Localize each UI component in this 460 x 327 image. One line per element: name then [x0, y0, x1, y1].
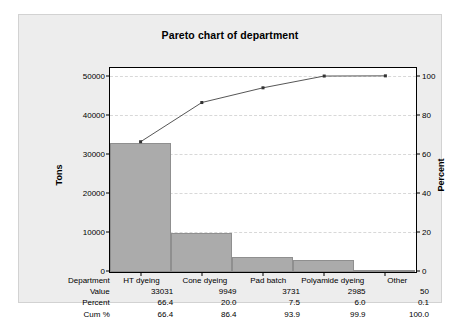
table-row-value: Value 3303199493731298550 [37, 286, 429, 297]
y-tick-label-right: 60 [422, 149, 431, 158]
cell-percent: 20.0 [173, 297, 236, 308]
chart-title: Pareto chart of department [19, 29, 441, 41]
y-tick-label-right: 100 [422, 71, 435, 80]
cell-cum: 100.0 [366, 309, 429, 320]
y-tick-mark-right [416, 153, 420, 154]
y-axis-label-right: Percent [436, 158, 446, 191]
cell-department: Pad batch [237, 275, 300, 286]
y-axis-label-left: Tons [54, 165, 64, 186]
cell-value: 50 [366, 286, 429, 297]
cumulative-marker [139, 140, 142, 143]
row-label-cum: Cum % [37, 309, 110, 320]
y-tick-mark-right [416, 231, 420, 232]
cell-value: 9949 [173, 286, 236, 297]
pareto-chart-panel: Pareto chart of department Tons Percent … [18, 14, 442, 303]
cumulative-marker [261, 86, 264, 89]
y-tick-label-right: 80 [422, 110, 431, 119]
cumulative-line-series [110, 68, 416, 272]
cumulative-marker [200, 101, 203, 104]
y-tick-mark-left [106, 271, 110, 272]
y-tick-label-right: 20 [422, 227, 431, 236]
cell-department: Other [366, 275, 429, 286]
cumulative-marker [323, 75, 326, 78]
cell-cum: 93.9 [237, 309, 300, 320]
cell-percent: 0.1 [366, 297, 429, 308]
y-tick-mark-right [416, 75, 420, 76]
y-tick-mark-left [106, 75, 110, 76]
cell-percent: 6.0 [300, 297, 366, 308]
cell-cum: 86.4 [173, 309, 236, 320]
cell-percent: 66.4 [110, 297, 173, 308]
cell-cum: 66.4 [110, 309, 173, 320]
cell-percent: 7.5 [237, 297, 300, 308]
cumulative-marker [384, 74, 387, 77]
plot-inner [110, 68, 416, 272]
cell-department: Polyamide dyeing [300, 275, 366, 286]
y-tick-mark-left [106, 231, 110, 232]
y-tick-mark-left [106, 114, 110, 115]
pareto-data-table: Department HT dyeingCone dyeingPad batch… [37, 275, 429, 320]
table-row-percent: Percent 66.420.07.56.00.1 [37, 297, 429, 308]
cell-value: 33031 [110, 286, 173, 297]
row-label-department: Department [37, 275, 110, 286]
cell-value: 3731 [237, 286, 300, 297]
y-tick-mark-left [106, 192, 110, 193]
y-tick-label-left: 10000 [83, 227, 105, 236]
y-tick-label-left: 20000 [83, 188, 105, 197]
cell-department: Cone dyeing [173, 275, 236, 286]
cumulative-line [141, 76, 386, 142]
plot-area: 01000020000300004000050000 020406080100 [109, 67, 417, 273]
y-tick-mark-right [416, 114, 420, 115]
table-row-cum: Cum % 66.486.493.999.9100.0 [37, 309, 429, 320]
cell-value: 2985 [300, 286, 366, 297]
cell-department: HT dyeing [110, 275, 173, 286]
cell-cum: 99.9 [300, 309, 366, 320]
table-row-department: Department HT dyeingCone dyeingPad batch… [37, 275, 429, 286]
row-label-value: Value [37, 286, 110, 297]
y-tick-mark-right [416, 192, 420, 193]
row-label-percent: Percent [37, 297, 110, 308]
y-tick-label-right: 40 [422, 188, 431, 197]
y-tick-label-left: 30000 [83, 149, 105, 158]
y-tick-mark-right [416, 271, 420, 272]
y-tick-label-left: 50000 [83, 71, 105, 80]
y-tick-mark-left [106, 153, 110, 154]
y-tick-label-left: 40000 [83, 110, 105, 119]
